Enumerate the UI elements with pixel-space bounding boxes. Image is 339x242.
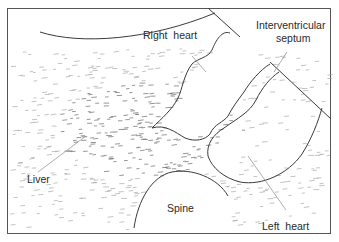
texture-speckle <box>21 206 25 207</box>
label-septum: septum <box>276 32 311 44</box>
texture-speckle <box>95 120 99 121</box>
texture-speckle <box>245 170 249 171</box>
texture-speckle <box>172 145 177 146</box>
texture-speckle <box>73 213 77 214</box>
texture-speckle <box>281 182 285 183</box>
texture-speckle <box>238 225 242 226</box>
texture-speckle <box>327 155 330 156</box>
texture-speckle <box>73 65 77 66</box>
texture-speckle <box>11 170 16 171</box>
texture-speckle <box>135 76 139 77</box>
texture-speckle <box>51 114 56 115</box>
texture-speckle <box>39 130 43 131</box>
texture-speckle <box>279 123 283 124</box>
texture-speckle <box>30 159 34 160</box>
texture-speckle <box>138 120 143 121</box>
texture-speckle <box>48 191 53 192</box>
texture-speckle <box>310 180 315 181</box>
septum-leader <box>274 52 287 72</box>
texture-speckle <box>179 166 183 167</box>
texture-speckle <box>150 93 154 94</box>
texture-speckle <box>244 191 247 192</box>
texture-speckle <box>43 92 47 93</box>
texture-speckle <box>42 78 47 79</box>
texture-speckle <box>137 124 140 125</box>
texture-speckle <box>156 68 160 69</box>
texture-speckle <box>299 188 304 189</box>
texture-speckle <box>145 97 150 98</box>
texture-speckle <box>150 103 155 104</box>
texture-speckle <box>166 107 171 108</box>
texture-speckle <box>170 93 175 94</box>
texture-speckle <box>59 217 63 218</box>
texture-speckle <box>304 207 309 208</box>
texture-speckle <box>69 110 73 111</box>
texture-speckle <box>94 180 97 181</box>
texture-speckle <box>171 94 176 95</box>
label-right-heart: Right heart <box>143 29 197 41</box>
texture-speckle <box>182 157 187 158</box>
texture-speckle <box>114 51 118 52</box>
texture-speckle <box>30 122 35 123</box>
texture-speckle <box>83 167 88 168</box>
texture-speckle <box>108 217 113 218</box>
texture-speckle <box>250 127 255 128</box>
texture-speckle <box>63 120 67 121</box>
texture-speckle <box>133 113 138 114</box>
texture-speckle <box>159 56 164 57</box>
texture-speckle <box>264 190 268 191</box>
texture-speckle <box>34 190 39 191</box>
texture-speckle <box>54 54 59 55</box>
texture-speckle <box>75 115 78 116</box>
texture-speckle <box>301 65 305 66</box>
texture-speckle <box>38 133 43 134</box>
texture-speckle <box>264 107 268 108</box>
ultrasound-diagram: Right heart Interventricular septum Live… <box>0 0 339 242</box>
texture-speckle <box>306 101 311 102</box>
label-liver: Liver <box>27 173 50 185</box>
texture-speckle <box>55 98 59 99</box>
label-left-heart: Left heart <box>262 220 309 232</box>
right-heart-leader <box>192 56 206 72</box>
texture-speckle <box>129 74 133 75</box>
texture-speckle <box>120 222 124 223</box>
texture-speckle <box>106 68 111 69</box>
texture-speckle <box>260 192 265 193</box>
label-spine: Spine <box>167 202 194 214</box>
texture-speckle <box>231 187 235 188</box>
sector-edge-line-lower <box>270 62 331 119</box>
texture-speckle <box>92 97 97 98</box>
texture-speckle <box>134 77 138 78</box>
texture-speckle <box>11 214 15 215</box>
texture-speckle <box>191 157 195 158</box>
texture-speckle <box>37 105 41 106</box>
texture-speckle <box>75 61 80 62</box>
texture-speckle <box>224 124 228 125</box>
texture-speckle <box>183 153 188 154</box>
texture-speckle <box>188 163 192 164</box>
septum-outline-outer <box>210 64 270 134</box>
texture-speckle <box>297 168 301 169</box>
texture-speckle <box>256 222 260 223</box>
texture-speckle <box>142 116 147 117</box>
texture-speckle <box>123 73 128 74</box>
texture-speckle <box>124 115 128 116</box>
texture-speckle <box>20 180 25 181</box>
texture-speckle <box>141 192 146 193</box>
texture-speckle <box>94 138 98 139</box>
spine-outline <box>134 171 228 228</box>
texture-speckle <box>285 181 290 182</box>
texture-speckle <box>90 112 95 113</box>
texture-speckle <box>88 67 93 68</box>
texture-speckle <box>174 139 178 140</box>
liver-leader <box>38 136 86 172</box>
texture-speckle <box>283 189 287 190</box>
texture-speckle <box>266 58 271 59</box>
texture-speckle <box>249 98 253 99</box>
texture-speckle <box>158 172 163 173</box>
texture-speckle <box>66 77 70 78</box>
label-interventricular: Interventricular <box>256 19 326 31</box>
